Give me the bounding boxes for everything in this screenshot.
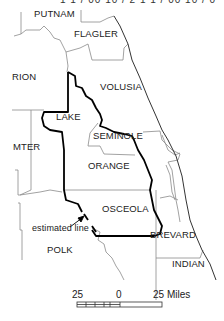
county-label-rion: RION — [12, 71, 36, 82]
county-label-seminole: SEMINOLE — [93, 130, 143, 141]
county-label-putnam: PUTNAM — [34, 8, 75, 19]
county-label-orange: ORANGE — [88, 160, 130, 171]
county-label-polk: POLK — [47, 244, 73, 255]
county-label-osceola: OSCEOLA — [102, 203, 149, 214]
county-label-brevard: BREVARD — [150, 229, 196, 240]
coastline — [114, 16, 216, 280]
clipped-header-text: 1 1 / 00 10 / 2 1 1 / 00 10 / 0 — [60, 0, 216, 5]
county-boundaries — [12, 10, 203, 300]
county-label-lake: LAKE — [56, 111, 81, 122]
county-label-mter: MTER — [13, 141, 40, 152]
estimated-line-label: estimated line — [32, 223, 89, 233]
county-label-flagler: FLAGLER — [74, 28, 118, 39]
scale-right-label: 25 Miles — [153, 289, 190, 300]
county-label-volusia: VOLUSIA — [100, 81, 142, 92]
scale-middle-label: 0 — [116, 289, 122, 300]
study-area-boundary-west — [42, 72, 82, 212]
county-label-indian: INDIAN — [172, 258, 205, 269]
scale-bar — [77, 302, 162, 307]
scale-left-label: 25 — [72, 289, 83, 300]
